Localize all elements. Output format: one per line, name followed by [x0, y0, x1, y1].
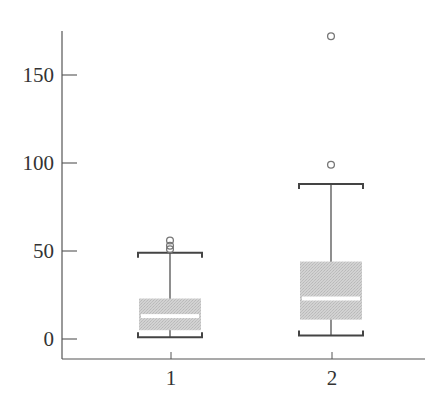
median-line: [302, 297, 360, 301]
x-tick-label: 1: [166, 366, 177, 390]
box-plot-chart: 050100150 12: [0, 0, 448, 398]
box-1: [138, 237, 202, 337]
y-tick-label: 0: [44, 327, 55, 351]
y-axis: 050100150: [23, 31, 78, 359]
box-series: [138, 33, 363, 337]
y-tick-label: 50: [33, 239, 54, 263]
x-ticks: 12: [166, 352, 338, 390]
chart-canvas: 050100150 12: [0, 0, 448, 398]
y-ticks: 050100150: [23, 63, 78, 351]
median-line: [141, 314, 199, 318]
x-tick-label: 2: [327, 366, 338, 390]
outlier-point: [328, 161, 335, 168]
y-tick-label: 100: [23, 151, 55, 175]
iqr-box: [300, 262, 362, 320]
y-tick-label: 150: [23, 63, 55, 87]
box-2: [299, 33, 363, 336]
outlier-point: [328, 33, 335, 40]
x-axis: 12: [62, 352, 425, 390]
